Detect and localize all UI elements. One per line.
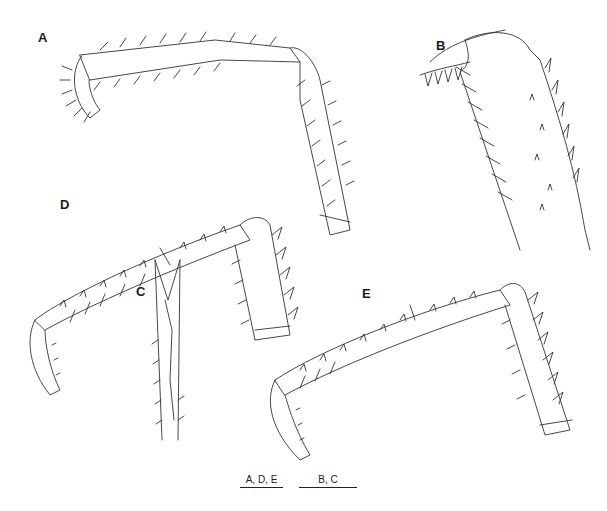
scale-bar-line xyxy=(299,487,357,488)
panel-b-drawing xyxy=(420,30,590,250)
scale-bar-bc: B, C xyxy=(299,474,357,488)
panel-c-drawing xyxy=(152,260,184,440)
panel-label-d: D xyxy=(60,197,69,212)
figure-plate: A B C D E A, D, E B, C xyxy=(0,0,607,511)
panel-label-e: E xyxy=(362,286,371,301)
scale-bar-label: A, D, E xyxy=(240,474,283,485)
leg-drawings xyxy=(0,0,607,511)
scale-bar-label: B, C xyxy=(299,474,357,485)
panel-a-drawing xyxy=(60,32,354,235)
panel-e-drawing xyxy=(270,283,572,460)
panel-label-b: B xyxy=(436,38,445,53)
panel-d-drawing xyxy=(30,218,298,396)
panel-label-c: C xyxy=(136,284,145,299)
panel-label-a: A xyxy=(38,30,47,45)
scale-bar-ade: A, D, E xyxy=(240,474,283,488)
scale-bar-line xyxy=(240,487,283,488)
